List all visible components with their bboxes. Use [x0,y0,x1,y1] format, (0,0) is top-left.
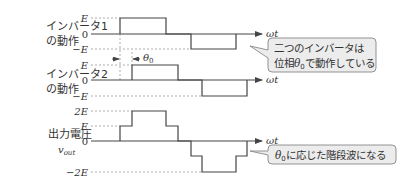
panel1-tick-negE: −E [72,44,88,55]
panel3-label-line2: vout [58,144,75,157]
panel3-tick-E: E [80,121,89,132]
panel3-tick-2E: 2E [73,106,88,117]
inverter-waveform-diagram: インバータ1 の動作 E 0 −E ωt θ0 インバータ2 の動作 E 0 −… [0,0,404,186]
panel-inverter1: インバータ1 の動作 E 0 −E ωt [46,13,279,55]
callout1-line2: 位相θ0で動作している [274,57,375,71]
panel2-label-line1: インバータ2 [46,68,108,81]
panel1-tick-E: E [80,13,89,24]
panel-output: 出力電圧 vout 2E E 0 −2E ωt [48,106,279,178]
panel1-label-line1: インバータ1 [46,20,108,33]
callout-phase-explanation: 二つのインバータは 位相θ0で動作している [250,38,376,72]
panel2-axis-label: ωt [266,74,279,85]
callout2-text: θ0に応じた階段波になる [275,149,386,163]
phase-annotation: θ0 [112,52,154,65]
phase-label: θ0 [143,52,154,65]
callout1-line1: 二つのインバータは [274,42,364,54]
callout-stepped-wave-explanation: θ0に応じた階段波になる [250,145,396,164]
panel-inverter2: インバータ2 の動作 E 0 −E ωt [46,60,279,102]
panel3-tick-neg2E: −2E [66,167,89,178]
panel2-tick-E: E [80,60,89,71]
panel1-tick-0: 0 [82,29,88,40]
panel2-tick-0: 0 [82,75,88,86]
panel3-tick-0: 0 [82,136,88,147]
panel3-axis-label: ωt [266,135,279,146]
panel1-axis-label: ωt [266,28,279,39]
panel2-tick-negE: −E [72,91,88,102]
